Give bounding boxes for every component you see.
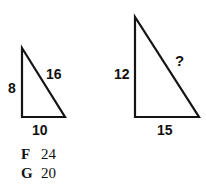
small-triangle-vertical-leg-label: 8: [8, 80, 16, 96]
small-triangle: 8 16 10: [8, 48, 65, 138]
answer-choices-list: F 24 G 20: [21, 146, 141, 184]
small-triangle-horizontal-leg-label: 10: [32, 122, 48, 138]
answer-choice-g[interactable]: G 20: [21, 165, 141, 184]
large-triangle-outline: [135, 17, 199, 117]
answer-choice-f[interactable]: F 24: [21, 146, 141, 165]
small-triangle-hypotenuse-label: 16: [46, 66, 62, 82]
answer-choice-g-value: 20: [41, 165, 56, 182]
large-triangle-vertical-leg-label: 12: [114, 66, 130, 82]
large-triangle: 12 ? 15: [114, 17, 199, 138]
geometry-problem-figure: 8 16 10 12 ? 15 F 24 G 20: [0, 0, 206, 187]
small-triangle-outline: [22, 48, 65, 117]
answer-choice-g-letter: G: [21, 165, 41, 182]
answer-choice-f-value: 24: [41, 146, 56, 163]
large-triangle-horizontal-leg-label: 15: [157, 122, 173, 138]
answer-choice-f-letter: F: [21, 146, 41, 163]
large-triangle-hypotenuse-label: ?: [175, 52, 184, 69]
